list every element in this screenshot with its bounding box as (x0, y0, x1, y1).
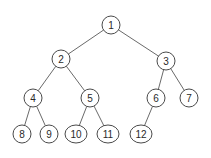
node-label: 4 (30, 93, 36, 104)
edges-layer (25, 30, 185, 126)
tree-node-7: 7 (180, 89, 198, 107)
node-label: 11 (103, 129, 114, 140)
edge-1-3 (119, 30, 159, 56)
node-label: 12 (135, 129, 147, 140)
edge-3-6 (158, 70, 163, 90)
tree-node-2: 2 (52, 50, 70, 68)
node-label: 5 (87, 93, 93, 104)
node-label: 2 (58, 54, 64, 65)
node-label: 6 (153, 93, 159, 104)
tree-node-4: 4 (24, 89, 42, 107)
edge-1-2 (68, 30, 103, 54)
node-label: 9 (46, 129, 52, 140)
node-label: 10 (70, 129, 82, 140)
binary-tree-diagram: 123456789101112 (0, 0, 211, 158)
tree-node-8: 8 (13, 125, 31, 143)
node-label: 3 (163, 56, 169, 67)
tree-node-3: 3 (157, 52, 175, 70)
tree-node-10: 10 (65, 125, 87, 143)
tree-node-1: 1 (102, 16, 120, 34)
edge-2-5 (66, 66, 84, 91)
tree-node-11: 11 (97, 125, 119, 143)
edge-4-8 (25, 107, 31, 126)
node-label: 8 (19, 129, 25, 140)
edge-5-10 (79, 106, 86, 125)
node-label: 7 (186, 93, 192, 104)
tree-node-6: 6 (147, 89, 165, 107)
nodes-layer: 123456789101112 (13, 16, 198, 143)
edge-4-9 (37, 106, 46, 126)
node-label: 1 (108, 20, 114, 31)
tree-node-12: 12 (130, 125, 152, 143)
edge-2-4 (38, 66, 56, 90)
edge-6-12 (144, 106, 152, 125)
edge-3-7 (171, 69, 184, 91)
tree-node-5: 5 (81, 89, 99, 107)
tree-svg: 123456789101112 (0, 0, 211, 158)
tree-node-9: 9 (40, 125, 58, 143)
edge-5-11 (94, 106, 104, 126)
